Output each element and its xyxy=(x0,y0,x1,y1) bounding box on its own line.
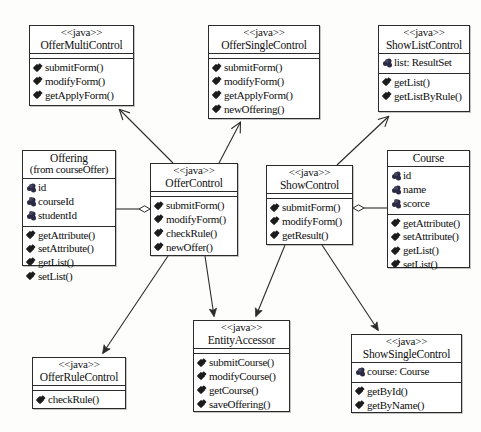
class-name: EntityAccessor xyxy=(196,334,287,346)
class-box-offer-multi-control[interactable]: <<java>>OfferMultiControlsubmitForm()mod… xyxy=(29,25,134,106)
class-operation-label: submitForm() xyxy=(282,201,340,215)
class-operation-label: getResult() xyxy=(282,229,328,243)
class-operation: getList() xyxy=(382,76,467,90)
class-operation: modifyForm() xyxy=(154,213,235,227)
class-box-offer-control[interactable]: <<java>>OfferControlsubmitForm()modifyFo… xyxy=(150,163,238,256)
class-name: OfferControl xyxy=(153,177,235,189)
class-operation-label: getList() xyxy=(38,256,74,270)
class-operation: saveOffering() xyxy=(197,398,287,412)
class-operations-compartment: getAttribute()setAttribute()getList()set… xyxy=(388,215,469,275)
class-box-offering[interactable]: Offering(from courseOffer)idcourseIdstud… xyxy=(22,150,116,266)
class-attribute: name xyxy=(391,183,467,197)
class-name: OfferMultiControl xyxy=(32,39,131,51)
class-header: <<java>>OfferSingleControl xyxy=(209,26,319,54)
class-operation: submitForm() xyxy=(154,199,235,213)
class-operation: modifyForm() xyxy=(212,75,317,89)
class-operation: setList() xyxy=(391,258,467,272)
class-operations-compartment: submitForm()modifyForm()getApplyForm() xyxy=(30,59,133,105)
class-attribute: studentId xyxy=(26,209,113,223)
class-attribute: course: Course xyxy=(355,365,459,379)
class-operation: getApplyForm() xyxy=(212,89,317,103)
class-attribute-label: scorce xyxy=(403,197,430,211)
operation-icon xyxy=(26,230,36,240)
class-header: <<java>>ShowListControl xyxy=(379,26,469,54)
class-operation-label: saveOffering() xyxy=(209,398,270,412)
operation-icon xyxy=(391,246,401,256)
operation-icon xyxy=(212,91,222,101)
class-attribute-label: studentId xyxy=(38,209,77,223)
class-attribute-label: list: ResultSet xyxy=(394,56,452,70)
class-operations-compartment: submitForm()modifyForm()getResult() xyxy=(267,199,352,245)
class-attributes-compartment: course: Course xyxy=(352,363,461,383)
class-operation: getListByRule() xyxy=(382,90,467,104)
class-box-offer-single-control[interactable]: <<java>>OfferSingleControlsubmitForm()mo… xyxy=(208,25,320,119)
class-operation: modifyCourse() xyxy=(197,370,287,384)
uml-class-diagram: <<java>>OfferMultiControlsubmitForm()mod… xyxy=(0,0,481,432)
operation-icon xyxy=(154,229,164,239)
class-box-show-single-control[interactable]: <<java>>ShowSingleControlcourse: Courseg… xyxy=(351,334,462,413)
class-operation: getById() xyxy=(355,385,459,399)
class-operation-label: getList() xyxy=(403,244,439,258)
class-operation-label: getApplyForm() xyxy=(224,89,293,103)
class-box-offer-rule-control[interactable]: <<java>>OfferRuleControlcheckRule() xyxy=(32,357,126,409)
operation-icon xyxy=(212,63,222,73)
class-header: Course xyxy=(388,151,469,167)
class-operation: newOffering() xyxy=(212,103,317,117)
class-header: <<java>>OfferControl xyxy=(151,164,237,192)
class-operations-compartment: submitForm()modifyForm()getApplyForm()ne… xyxy=(209,59,319,119)
attribute-icon xyxy=(391,185,401,195)
class-operation: getList() xyxy=(26,256,113,270)
class-operation: newOffer() xyxy=(154,241,235,255)
class-stereotype: <<java>> xyxy=(211,27,317,39)
class-operations-compartment: submitForm()modifyForm()checkRule()newOf… xyxy=(151,197,237,257)
class-attribute-label: id xyxy=(403,169,411,183)
class-stereotype: <<java>> xyxy=(381,27,467,39)
operation-icon xyxy=(33,91,43,101)
class-operation-label: setList() xyxy=(38,270,72,284)
class-name: Course xyxy=(390,152,467,164)
class-attribute: courseId xyxy=(26,195,113,209)
operation-icon xyxy=(212,77,222,87)
class-operation-label: setAttribute() xyxy=(403,230,459,244)
class-operations-compartment: submitCourse()modifyCourse()getCourse()s… xyxy=(194,354,289,414)
class-operation: modifyForm() xyxy=(270,215,350,229)
class-operation: checkRule() xyxy=(36,393,123,407)
class-operation: setAttribute() xyxy=(26,242,113,256)
operation-icon xyxy=(197,399,207,409)
operation-icon xyxy=(270,231,280,241)
class-operations-compartment: getById()getByName() xyxy=(352,383,461,416)
class-name: ShowSingleControl xyxy=(354,348,459,360)
class-box-course[interactable]: CourseidnamescorcegetAttribute()setAttri… xyxy=(387,150,470,268)
class-operation-label: setAttribute() xyxy=(38,242,94,256)
class-operation: getByName() xyxy=(355,399,459,413)
operation-icon xyxy=(197,386,207,396)
operation-icon xyxy=(391,219,401,229)
class-attribute-label: course: Course xyxy=(367,365,429,379)
class-box-show-control[interactable]: <<java>>ShowControlsubmitForm()modifyFor… xyxy=(266,165,353,245)
operation-icon xyxy=(33,63,43,73)
class-operation-label: submitForm() xyxy=(45,61,103,75)
class-operations-compartment: getList()getListByRule() xyxy=(379,74,469,107)
operation-icon xyxy=(270,203,280,213)
edge-offering-offercontrol xyxy=(116,206,150,212)
operation-icon xyxy=(33,77,43,87)
attribute-icon xyxy=(26,183,36,193)
operation-icon xyxy=(355,401,365,411)
class-operation: getCourse() xyxy=(197,384,287,398)
class-operation-label: modifyForm() xyxy=(282,215,342,229)
class-operation-label: getList() xyxy=(394,76,430,90)
class-operations-compartment: checkRule() xyxy=(33,391,125,410)
operation-icon xyxy=(26,272,36,282)
edge-showcontrol-showlistcontrol xyxy=(337,117,388,165)
class-attribute-label: name xyxy=(403,183,426,197)
class-header: <<java>>EntityAccessor xyxy=(194,321,289,349)
class-name: ShowListControl xyxy=(381,39,467,51)
class-box-show-list-control[interactable]: <<java>>ShowListControllist: ResultSetge… xyxy=(378,25,470,112)
class-operation: getResult() xyxy=(270,229,350,243)
edge-showcontrol-showsinglecontrol xyxy=(322,245,378,330)
class-operation-label: getApplyForm() xyxy=(45,89,114,103)
class-operation: checkRule() xyxy=(154,227,235,241)
class-stereotype: <<java>> xyxy=(32,27,131,39)
class-box-entity-accessor[interactable]: <<java>>EntityAccessorsubmitCourse()modi… xyxy=(193,320,290,412)
operation-icon xyxy=(36,395,46,405)
